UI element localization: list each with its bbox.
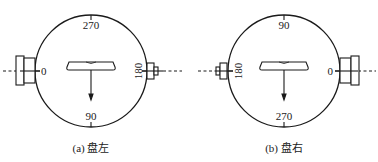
label-b-top: 90 [279, 19, 291, 31]
index-level-bubble-icon [67, 62, 116, 100]
label-a-left: 0 [41, 65, 47, 77]
vertical-circle-diagram: 270 90 0 180 90 270 [0, 0, 378, 162]
small-knob-icon [216, 63, 233, 79]
label-b-bottom: 270 [276, 110, 293, 122]
label-a-bottom: 90 [86, 110, 98, 122]
label-b-left: 180 [232, 62, 244, 79]
label-a-right: 180 [132, 62, 144, 79]
label-a-top: 270 [83, 19, 100, 31]
caption-panel-b: (b) 盘右 [224, 139, 344, 155]
index-level-bubble-icon [260, 62, 309, 100]
caption-panel-a: (a) 盘左 [31, 139, 151, 155]
label-b-right: 0 [328, 65, 334, 77]
small-knob-icon [142, 63, 163, 79]
